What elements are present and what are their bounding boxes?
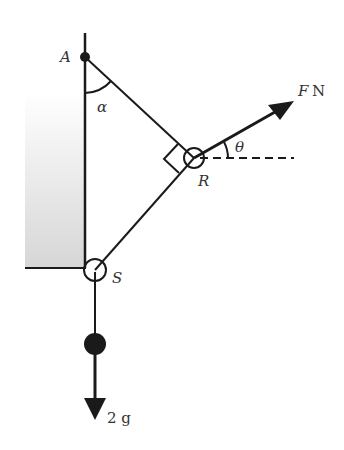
theta-arc [224, 142, 228, 158]
right-angle-marker [164, 144, 179, 173]
label-N: N [312, 82, 325, 100]
alpha-arc [85, 81, 111, 93]
label-A: A [58, 48, 71, 66]
label-S: S [112, 269, 122, 287]
string-RS [95, 158, 194, 270]
label-F: F [297, 82, 309, 100]
label-theta: θ [235, 138, 244, 156]
point-A [80, 52, 90, 62]
label-R: R [197, 172, 209, 190]
force-F-arrowhead [268, 101, 294, 120]
weight-arrowhead [84, 398, 106, 420]
wall-shading [25, 92, 85, 268]
label-weight: 2 g [107, 409, 131, 427]
label-alpha: α [97, 98, 107, 116]
mechanics-diagram: A α R S θ F N 2 g [0, 0, 344, 450]
